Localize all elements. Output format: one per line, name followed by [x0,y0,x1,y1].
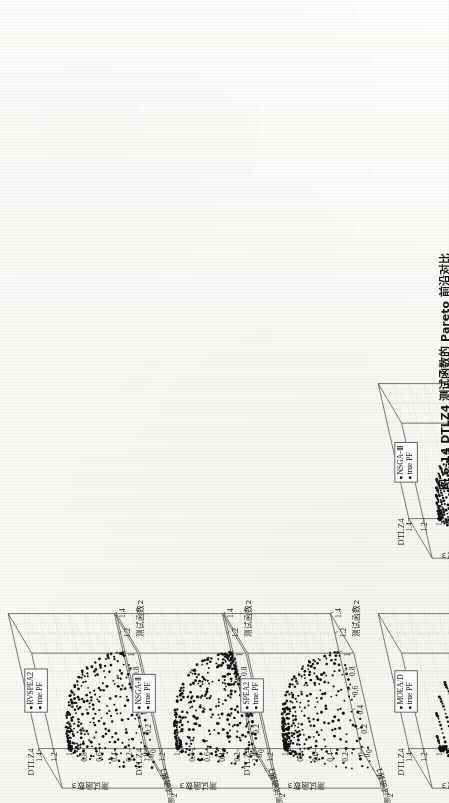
plot-title: DTLZ4 [28,748,37,775]
legend-marker-icon [255,706,258,709]
y-axis-label: 测试函数2 [353,600,361,637]
plot-title: DTLZ4 [398,748,407,775]
y-tick-label: 0.8 [348,666,356,676]
legend-marker-icon [138,706,141,709]
z-tick-label: 0.8 [189,752,197,770]
legend-box[interactable]: RVSPEA2 true PF [24,668,47,712]
z-tick-label: 1 [436,522,444,540]
legend-box[interactable]: SPEA2 true PF [240,678,263,712]
legend-marker-icon [246,706,249,709]
legend-marker-icon [400,706,403,709]
legend-box[interactable]: MOEA/D true PF [394,671,417,713]
y-tick-label: 0.6 [352,686,360,696]
z-axis-label: 测试函数3 [180,782,217,790]
legend-marker-icon [147,706,150,709]
z-tick-label: 0.6 [96,752,104,770]
z-tick-label: 1 [66,752,74,770]
z-tick-label: 0.6 [204,752,212,770]
z-tick-label: 1.2 [420,752,428,770]
plot-title: DTLZ4 [136,748,145,775]
y-tick-label: 1 [344,653,352,657]
z-tick-label: 0.6 [312,752,320,770]
legend-entry-truepf: true PF [406,674,415,709]
z-tick-label: 1.2 [50,752,58,770]
z-axis-label: 测试函数3 [442,782,449,790]
y-tick-label: 0.2 [361,724,369,734]
legend-label-truepf: true PF [406,682,415,704]
z-tick-label: 1.2 [420,522,428,540]
figure-caption: 图 6-14 DTLZ4 测试函数的 Pareto 前沿对比 [436,253,449,490]
x-tick-label: 0 [364,754,372,758]
plot-title: DTLZ4 [244,748,253,775]
legend-entry-truepf: true PF [36,672,45,709]
z-axis-label: 测试函数3 [442,552,449,560]
y-tick-label: 0.4 [357,705,365,715]
legend-label-truepf: true PF [36,682,45,704]
y-tick-label: 0 [366,749,374,753]
legend-marker-icon [400,476,403,479]
legend-marker-icon [409,706,412,709]
z-axis-label: 测试函数3 [288,782,325,790]
z-tick-label: 1 [436,752,444,770]
y-tick-label: 1.2 [339,628,347,638]
y-tick-label: 1.4 [335,609,343,619]
legend-label-truepf: true PF [144,682,153,704]
legend-marker-icon [409,476,412,479]
z-tick-label: 1 [174,752,182,770]
z-tick-label: 1.2 [266,752,274,770]
legend-entry-truepf: true PF [252,682,261,709]
z-tick-label: 0.2 [342,752,350,770]
z-tick-label: 1 [282,752,290,770]
z-tick-label: 1.2 [158,752,166,770]
z-tick-label: 0.8 [81,752,89,770]
plot-title: DTLZ4 [398,518,407,545]
legend-box[interactable]: NSGA-Ⅲ true PF [394,442,417,482]
legend-box[interactable]: NSGA-Ⅱ true PF [132,674,155,713]
z-axis-label: 测试函数3 [72,782,109,790]
legend-label-truepf: true PF [406,452,415,474]
z-tick-label: 0.8 [297,752,305,770]
legend-marker-icon [30,706,33,709]
plot-panel-moead: .gl{stroke:#c8c8c8;stroke-width:.5;strok… [380,565,449,790]
legend-entry-truepf: true PF [144,678,153,709]
z-tick-label: 0.4 [327,752,335,770]
legend-label-truepf: true PF [252,682,261,704]
legend-entry-truepf: true PF [406,446,415,479]
legend-marker-icon [39,706,42,709]
